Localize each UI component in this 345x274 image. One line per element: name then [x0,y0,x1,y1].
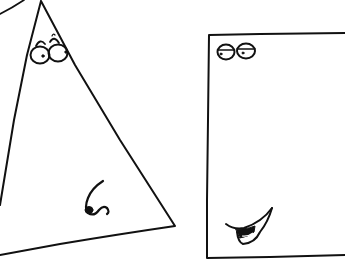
drawing-canvas [0,0,345,274]
rectangle-left-eye-icon [218,45,235,60]
triangle-right-eyebrow-icon [50,39,59,43]
triangle-nostril [85,207,93,214]
rectangle-right-pupil [242,52,244,54]
triangle-character [0,1,175,255]
triangle-left-eyebrow-icon [36,41,45,46]
rectangle-left-pupil [220,53,222,55]
triangle-left-eye-icon [31,47,50,64]
triangle-left-pupil [42,55,44,57]
triangle-right-pupil [65,51,67,53]
rectangle-character [207,33,345,258]
top-left-arc [0,0,24,14]
triangle-body [0,1,175,255]
triangle-brow-tick [52,34,55,36]
rectangle-right-eye-icon [237,44,255,59]
